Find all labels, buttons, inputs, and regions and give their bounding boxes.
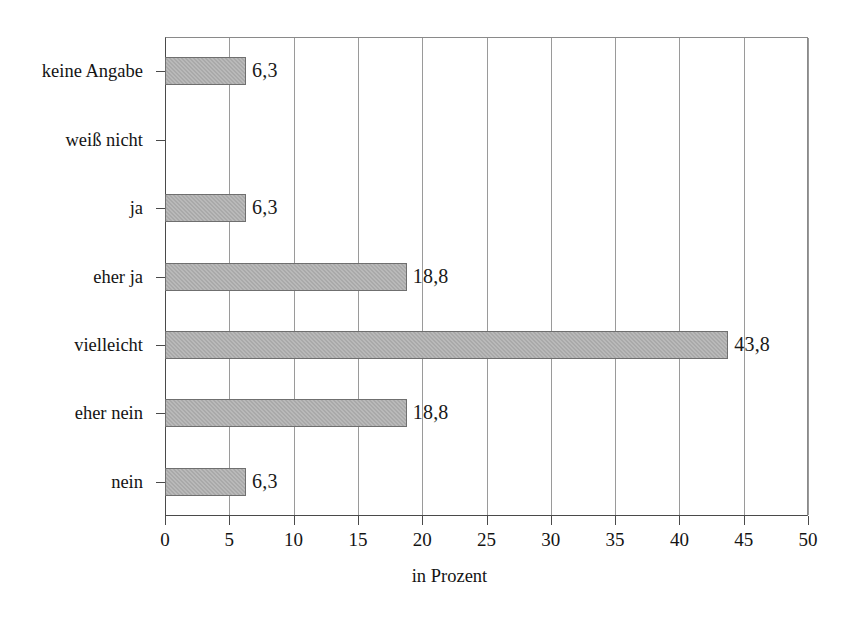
bar-value-label: 6,3 <box>252 59 278 82</box>
x-axis-label: 40 <box>670 529 689 551</box>
x-axis-tick <box>165 516 166 525</box>
x-axis-tick <box>487 516 488 525</box>
y-axis-tick <box>156 482 165 483</box>
y-axis-label: ja <box>0 198 143 219</box>
bar-chart: 6,318,843,818,86,36,3 neineher neinviell… <box>0 0 853 618</box>
y-axis-tick <box>156 208 165 209</box>
x-axis-title-text: in Prozent <box>412 566 488 586</box>
bar-value-label: 6,3 <box>252 196 278 219</box>
x-axis-tick <box>422 516 423 525</box>
y-axis-label: keine Angabe <box>0 61 143 82</box>
gridline <box>744 38 745 515</box>
y-axis-label: weiß nicht <box>0 129 143 150</box>
gridline <box>615 38 616 515</box>
y-axis-label: nein <box>0 471 143 492</box>
x-axis-label: 10 <box>284 529 303 551</box>
x-axis-label: 5 <box>225 529 235 551</box>
x-axis-label: 30 <box>541 529 560 551</box>
gridline <box>679 38 680 515</box>
bar: 6,3 <box>165 57 246 85</box>
x-axis-tick <box>744 516 745 525</box>
bar: 43,8 <box>165 331 728 359</box>
x-axis-title: in Prozent <box>0 566 853 587</box>
bar-value-label: 43,8 <box>734 333 770 356</box>
x-axis-tick <box>551 516 552 525</box>
x-axis-label: 15 <box>348 529 367 551</box>
bar: 18,8 <box>165 263 407 291</box>
x-axis-label: 35 <box>606 529 625 551</box>
gridline <box>808 38 809 515</box>
gridline <box>487 38 488 515</box>
x-axis-label: 50 <box>799 529 818 551</box>
y-axis-tick <box>156 140 165 141</box>
y-axis-tick <box>156 71 165 72</box>
x-axis-tick <box>679 516 680 525</box>
y-axis-label: vielleicht <box>0 334 143 355</box>
gridline <box>551 38 552 515</box>
x-axis-label: 45 <box>734 529 753 551</box>
y-axis-tick <box>156 345 165 346</box>
x-axis-tick <box>615 516 616 525</box>
y-axis-tick <box>156 277 165 278</box>
x-axis-tick <box>808 516 809 525</box>
bar-value-label: 18,8 <box>413 265 449 288</box>
y-axis-tick <box>156 413 165 414</box>
x-axis-tick <box>294 516 295 525</box>
bar: 18,8 <box>165 399 407 427</box>
chart-title <box>0 4 853 18</box>
bar: 6,3 <box>165 194 246 222</box>
x-axis-tick <box>229 516 230 525</box>
x-axis-label: 20 <box>413 529 432 551</box>
bar-value-label: 6,3 <box>252 470 278 493</box>
bar-value-label: 18,8 <box>413 401 449 424</box>
x-axis-label: 0 <box>160 529 170 551</box>
y-axis-label: eher ja <box>0 266 143 287</box>
y-axis-label: eher nein <box>0 403 143 424</box>
x-axis-tick <box>358 516 359 525</box>
bar: 6,3 <box>165 468 246 496</box>
x-axis-label: 25 <box>477 529 496 551</box>
